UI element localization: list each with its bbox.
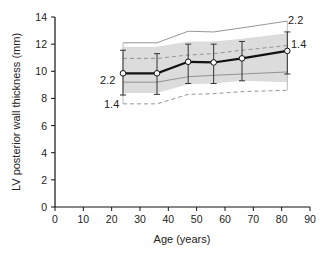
y-tick-label: 0: [41, 201, 47, 213]
x-tick-label: 50: [191, 213, 203, 225]
y-tick-label: 4: [41, 147, 47, 159]
x-tick-label: 60: [219, 213, 231, 225]
chart-svg: 0102030405060708090 02468101214 Age (yea…: [0, 0, 328, 256]
x-tick-label: 30: [134, 213, 146, 225]
x-axis-ticks: 0102030405060708090: [52, 207, 316, 225]
x-axis-label: Age (years): [154, 233, 211, 245]
annotation-right-upper: 2.2: [288, 14, 303, 26]
data-point-marker: [211, 60, 217, 66]
data-point-marker: [185, 59, 191, 65]
annotation-left-lower: 1.4: [104, 98, 119, 110]
annotation-right-lower: 1.4: [291, 38, 306, 50]
y-tick-label: 8: [41, 92, 47, 104]
x-tick-label: 80: [276, 213, 288, 225]
x-tick-label: 90: [304, 213, 316, 225]
y-axis-label: LV posterior wall thickness (mm): [10, 33, 22, 191]
data-point-marker: [285, 48, 291, 54]
y-tick-label: 10: [35, 65, 47, 77]
annotation-left-upper: 2.2: [100, 74, 115, 86]
x-tick-label: 0: [52, 213, 58, 225]
data-point-marker: [120, 71, 126, 77]
x-tick-label: 10: [77, 213, 89, 225]
data-point-marker: [154, 71, 160, 77]
x-tick-label: 40: [162, 213, 174, 225]
y-tick-label: 14: [35, 11, 47, 23]
chart-container: 0102030405060708090 02468101214 Age (yea…: [0, 0, 328, 256]
y-tick-label: 6: [41, 120, 47, 132]
x-tick-label: 20: [106, 213, 118, 225]
y-tick-label: 12: [35, 38, 47, 50]
y-axis-ticks: 02468101214: [35, 11, 55, 213]
data-point-marker: [239, 56, 245, 62]
x-tick-label: 70: [247, 213, 259, 225]
y-tick-label: 2: [41, 174, 47, 186]
